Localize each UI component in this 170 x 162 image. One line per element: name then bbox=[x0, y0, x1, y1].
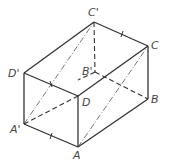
cuboid-diagram: C' C D' B' D B A' A bbox=[0, 0, 170, 162]
cuboid-drawing bbox=[0, 0, 170, 162]
edge-b-prime-b bbox=[95, 72, 148, 99]
vertex-label-d-prime: D' bbox=[8, 68, 20, 79]
vertex-label-a-prime: A' bbox=[10, 124, 21, 135]
vertex-label-b: B bbox=[151, 94, 159, 105]
edge-c-prime-b-prime bbox=[94, 22, 95, 72]
vertex-label-c-prime: C' bbox=[88, 7, 99, 18]
vertex-label-b-prime: B' bbox=[82, 66, 93, 77]
vertex-label-a: A bbox=[73, 150, 81, 161]
diagonal-a-prime-d bbox=[24, 96, 78, 124]
vertex-label-d: D bbox=[82, 97, 90, 108]
edge-c-prime-c bbox=[94, 22, 148, 46]
vertex-label-c: C bbox=[151, 40, 159, 51]
